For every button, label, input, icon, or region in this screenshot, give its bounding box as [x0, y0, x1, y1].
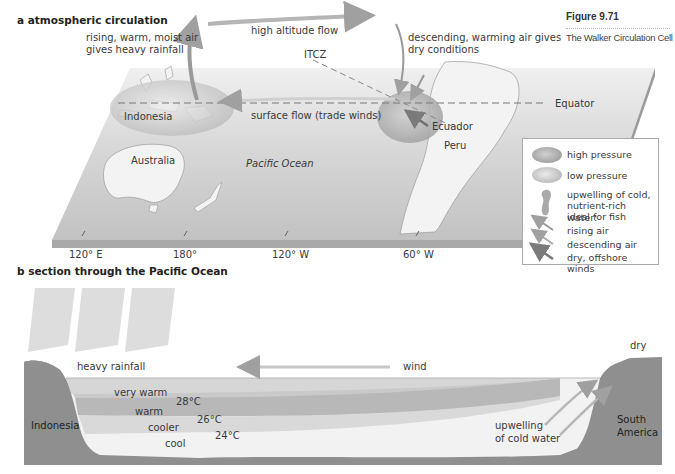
high-pressure-swatch: [532, 147, 562, 163]
rising-air-label-line2: gives heavy rainfall: [86, 44, 184, 56]
pacific-ocean-label: Pacific Ocean: [246, 158, 314, 170]
layer-cool-label: cool: [165, 438, 186, 450]
wind-label: wind: [403, 361, 427, 373]
peru-label: Peru: [444, 140, 466, 152]
south-america-label-line2: America: [617, 427, 658, 439]
australia-label: Australia: [131, 155, 175, 167]
panel-b-title: b section through the Pacific Ocean: [17, 265, 228, 277]
figure-divider: [566, 28, 670, 29]
indonesia-section-label: Indonesia: [31, 420, 79, 432]
legend-low-pressure-label: low pressure: [567, 170, 627, 182]
figure-caption: The Walker Circulation Cell: [566, 32, 673, 43]
itcz-label: ITCZ: [304, 49, 326, 61]
descending-air-label-line1: descending, warming air gives: [408, 32, 561, 44]
descending-air-swatch: [537, 233, 553, 244]
temp-28-label: 28°C: [176, 396, 201, 408]
rising-air-label-line1: rising, warm, moist air: [86, 32, 198, 44]
map-plane-edge: [52, 240, 596, 248]
south-america-label-line1: South: [617, 414, 646, 426]
longitude-120w: 120° W: [272, 249, 309, 261]
figure-number: Figure 9.71: [566, 11, 619, 22]
legend-rising-air-label: rising air: [567, 225, 609, 237]
low-pressure-indonesia: [110, 80, 234, 136]
offshore-wind-swatch: [537, 248, 553, 259]
rain-clouds: [28, 288, 175, 352]
longitude-180: 180°: [173, 249, 197, 261]
indonesia-map-label: Indonesia: [124, 111, 172, 123]
low-pressure-swatch: [532, 167, 562, 183]
upwelling-swatch: [542, 190, 551, 216]
upwelling-label-line2: of cold water: [495, 433, 560, 445]
layer-warm-label: warm: [135, 406, 163, 418]
panel-a-title: a atmospheric circulation: [17, 14, 168, 26]
longitude-60w: 60° W: [403, 249, 434, 261]
legend-high-pressure-label: high pressure: [567, 149, 632, 161]
upwelling-label-line1: upwelling: [495, 420, 543, 432]
high-altitude-flow-label: high altitude flow: [251, 25, 338, 37]
heavy-rainfall-label: heavy rainfall: [77, 361, 145, 373]
legend: high pressure low pressure upwelling of …: [522, 138, 659, 265]
equator-label: Equator: [555, 98, 594, 110]
descending-air-label-line2: dry conditions: [408, 44, 479, 56]
layer-very-warm-label: very warm: [114, 387, 167, 399]
legend-descending-air-label: descending air: [567, 239, 637, 251]
dry-label: dry: [630, 340, 646, 352]
legend-upwelling-label-3: ideal for fish: [567, 211, 626, 223]
longitude-120e: 120° E: [69, 249, 103, 261]
legend-offshore-wind-label-2: winds: [567, 263, 594, 275]
temp-24-label: 24°C: [215, 430, 240, 442]
high-altitude-flow-arrow: [208, 16, 360, 24]
rising-air-swatch: [537, 219, 553, 230]
temp-26-label: 26°C: [197, 414, 222, 426]
layer-cooler-label: cooler: [148, 422, 179, 434]
surface-flow-label: surface flow (trade winds): [251, 110, 381, 122]
ecuador-label: Ecuador: [432, 121, 473, 133]
